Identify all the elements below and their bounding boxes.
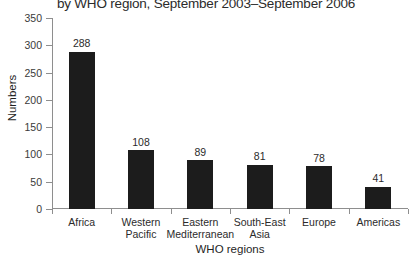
- y-tick-label: 50: [2, 177, 42, 188]
- plot-area: 28810889817841: [52, 18, 408, 209]
- x-axis-title: WHO regions: [52, 243, 408, 255]
- x-tick-mark: [230, 209, 231, 214]
- x-tick-mark: [349, 209, 350, 214]
- bar-value-label: 81: [231, 151, 289, 162]
- x-tick-mark: [171, 209, 172, 214]
- bar-value-label: 41: [349, 173, 407, 184]
- y-tick-label: 150: [2, 122, 42, 133]
- chart-title: by WHO region, September 2003–September …: [0, 0, 412, 12]
- bar-group: 81: [231, 18, 289, 209]
- y-tick-label: 100: [2, 149, 42, 160]
- bar: [69, 52, 95, 209]
- y-tick-label: 250: [2, 68, 42, 79]
- bar-group: 89: [171, 18, 229, 209]
- x-tick-mark: [52, 209, 53, 214]
- x-tick-mark: [408, 209, 409, 214]
- bar-value-label: 288: [53, 38, 111, 49]
- bar-group: 288: [53, 18, 111, 209]
- bar: [365, 187, 391, 209]
- y-tick-label: 0: [2, 204, 42, 215]
- bar: [128, 150, 154, 209]
- bar-value-label: 78: [290, 153, 348, 164]
- bar: [187, 160, 213, 209]
- bar: [247, 165, 273, 209]
- bar-chart-figure: by WHO region, September 2003–September …: [0, 0, 412, 260]
- y-tick-label: 350: [2, 13, 42, 24]
- x-tick-mark: [111, 209, 112, 214]
- x-tick-mark: [289, 209, 290, 214]
- bar-value-label: 108: [112, 137, 170, 148]
- y-tick-label: 200: [2, 95, 42, 106]
- x-category-label: Americas: [342, 217, 412, 229]
- x-category-label-line: Asia: [224, 229, 296, 241]
- bar-value-label: 89: [171, 147, 229, 158]
- bar: [306, 166, 332, 209]
- x-category-label-line: Americas: [342, 217, 412, 229]
- bar-group: 108: [112, 18, 170, 209]
- y-tick-label: 300: [2, 40, 42, 51]
- bar-group: 78: [290, 18, 348, 209]
- bar-group: 41: [349, 18, 407, 209]
